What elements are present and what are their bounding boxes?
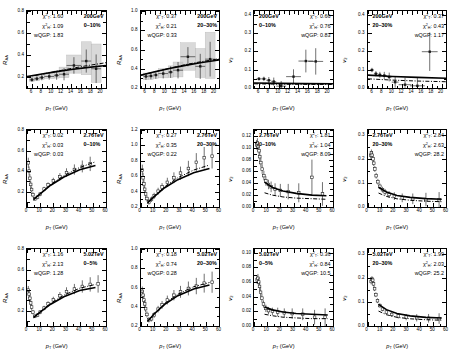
- x-tick: [32, 84, 33, 88]
- x-tick: [333, 322, 334, 326]
- x-tick: [289, 11, 290, 15]
- x-tick: [93, 322, 94, 326]
- x-tick-label: 12: [58, 89, 63, 94]
- x-tick: [220, 322, 221, 326]
- x-tick: [193, 249, 194, 253]
- x-tick-label: 20: [50, 327, 55, 332]
- x-tick-label: 18: [315, 89, 320, 94]
- x-axis-title: pT (GeV): [114, 105, 228, 112]
- x-minor-tick: [99, 324, 100, 327]
- x-tick-label: 10: [37, 327, 42, 332]
- x-minor-tick: [313, 324, 314, 327]
- x-tick-label: 50: [430, 208, 435, 213]
- y-axis-title: v2: [341, 57, 348, 62]
- x-minor-tick: [96, 86, 97, 89]
- y-tick: [329, 70, 333, 71]
- x-tick: [318, 84, 319, 88]
- x-tick: [294, 203, 295, 207]
- x-minor-tick: [99, 205, 100, 208]
- x-tick-label: 60: [102, 327, 107, 332]
- x-axis-title: pT (GeV): [341, 105, 454, 112]
- x-tick-label: 60: [216, 327, 221, 332]
- y-tick: [141, 288, 145, 289]
- y-tick: [368, 33, 372, 34]
- y-minor-tick: [368, 61, 371, 62]
- x-tick: [368, 249, 369, 253]
- y-minor-tick: [217, 199, 220, 200]
- x-minor-tick: [106, 11, 107, 14]
- x-minor-tick: [447, 86, 448, 89]
- y-axis-title: v2: [341, 295, 348, 300]
- x-minor-tick: [427, 205, 428, 208]
- x-minor-tick: [73, 324, 74, 327]
- x-tick: [294, 249, 295, 253]
- y-tick: [141, 307, 145, 308]
- y-tick-label: 0.8: [0, 8, 24, 13]
- y-minor-tick: [330, 189, 333, 190]
- y-tick-label: 0.2: [227, 48, 251, 53]
- x-tick-label: 10: [48, 89, 53, 94]
- x-minor-tick: [190, 11, 191, 14]
- y-tick: [329, 171, 333, 172]
- y-tick: [329, 282, 333, 283]
- panel-p7: 01020304050600.000.020.040.060.080.100.1…: [227, 119, 341, 238]
- x-tick: [71, 11, 72, 15]
- y-tick: [102, 311, 106, 312]
- y-tick: [102, 77, 106, 78]
- x-tick: [308, 84, 309, 88]
- x-tick: [40, 322, 41, 326]
- y-minor-tick: [141, 184, 144, 185]
- y-tick: [102, 11, 106, 12]
- x-tick: [175, 84, 176, 88]
- y-minor-tick: [444, 290, 447, 291]
- x-minor-tick: [210, 86, 211, 89]
- x-tick-label: 10: [150, 208, 155, 213]
- y-tick: [368, 278, 372, 279]
- y-minor-tick: [330, 201, 333, 202]
- x-tick: [80, 203, 81, 207]
- x-tick-label: 6: [30, 89, 33, 94]
- y-tick: [254, 183, 258, 184]
- y-tick: [215, 288, 219, 289]
- y-tick-label: 0.4: [114, 188, 138, 193]
- x-minor-tick: [326, 324, 327, 327]
- y-tick: [254, 253, 258, 254]
- x-tick: [307, 322, 308, 326]
- x-tick: [394, 249, 395, 253]
- y-axis-title: RAA: [116, 55, 123, 65]
- x-tick-label: 10: [150, 327, 155, 332]
- y-minor-tick: [368, 290, 371, 291]
- x-axis-title: pT (GeV): [227, 105, 341, 112]
- x-tick-label: 20: [163, 208, 168, 213]
- y-tick: [215, 11, 219, 12]
- y-tick: [254, 70, 258, 71]
- panel-p2: 681012141618200.20.40.60.81.0pT (GeV)RAA…: [114, 0, 228, 119]
- y-axis-title: v2: [341, 176, 348, 181]
- y-tick-label: 0.2: [0, 74, 24, 79]
- y-tick: [368, 15, 372, 16]
- x-tick-label: 50: [316, 208, 321, 213]
- x-tick: [80, 130, 81, 134]
- x-tick: [91, 84, 92, 88]
- y-tick: [141, 145, 145, 146]
- y-tick: [102, 130, 106, 131]
- x-minor-tick: [440, 205, 441, 208]
- x-tick-label: 60: [216, 208, 221, 213]
- y-axis-title: v2: [227, 176, 234, 181]
- x-minor-tick: [374, 324, 375, 327]
- x-tick: [402, 11, 403, 15]
- x-tick-label: 20: [277, 208, 282, 213]
- panel-header-annotation: 5.02TeV20–30%: [373, 252, 393, 266]
- x-minor-tick: [170, 86, 171, 89]
- y-minor-tick: [368, 79, 371, 80]
- y-axis-title: RAA: [116, 174, 123, 184]
- y-tick: [141, 11, 145, 12]
- x-minor-tick: [323, 86, 324, 89]
- y-minor-tick: [103, 202, 106, 203]
- x-minor-tick: [447, 11, 448, 14]
- figure-panel-grid: 681012141618200.20.40.60.8pT (GeV)RAAχ2T…: [0, 0, 454, 357]
- y-minor-tick: [368, 195, 371, 196]
- y-tick: [442, 159, 446, 160]
- y-minor-tick: [141, 153, 144, 154]
- y-minor-tick: [27, 161, 30, 162]
